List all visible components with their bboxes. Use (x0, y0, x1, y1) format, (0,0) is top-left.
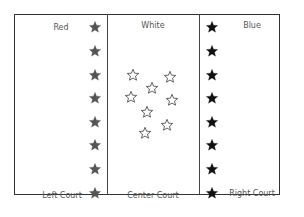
star-icon (89, 163, 102, 176)
star-icon (89, 45, 102, 58)
star-icon (89, 139, 102, 152)
star-icon (89, 187, 102, 200)
right-court-label: Right Court (229, 189, 275, 198)
star-icon (206, 21, 219, 34)
star-icon (89, 92, 102, 105)
star-icon (206, 45, 219, 58)
white-team-label: White (141, 21, 164, 30)
red-team-label: Red (53, 23, 68, 32)
star-outline-icon (125, 91, 138, 104)
left-divider (107, 14, 108, 195)
star-icon (206, 92, 219, 105)
star-icon (206, 187, 219, 200)
star-outline-icon (139, 127, 152, 140)
star-icon (206, 116, 219, 129)
star-icon (206, 163, 219, 176)
star-icon (89, 69, 102, 82)
star-outline-icon (127, 69, 140, 82)
star-outline-icon (141, 106, 154, 119)
star-outline-icon (146, 82, 159, 95)
star-outline-icon (161, 119, 174, 132)
star-icon (206, 69, 219, 82)
blue-team-label: Blue (243, 21, 261, 30)
star-icon (89, 116, 102, 129)
star-icon (89, 21, 102, 34)
star-outline-icon (164, 71, 177, 84)
left-court-label: Left Court (42, 191, 82, 200)
center-court-label: Center Court (127, 191, 178, 200)
star-icon (206, 139, 219, 152)
star-outline-icon (166, 94, 179, 107)
right-divider (199, 14, 200, 195)
court-outline (14, 14, 280, 195)
